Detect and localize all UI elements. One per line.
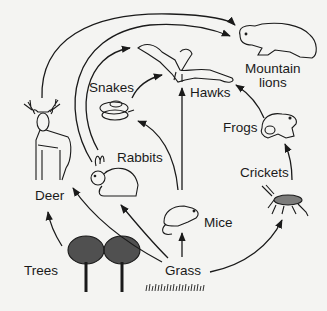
- hawk-illustration: [138, 45, 233, 83]
- label-mountain-lions-line2: lions: [245, 76, 301, 90]
- mouse-illustration: [163, 206, 198, 234]
- cricket-illustration: [262, 185, 308, 216]
- label-trees: Trees: [24, 264, 58, 278]
- label-mice: Mice: [204, 216, 233, 230]
- label-frogs: Frogs: [223, 121, 258, 135]
- trees-illustration: [68, 236, 140, 292]
- mountain-lion-illustration: [240, 23, 317, 58]
- label-rabbits: Rabbits: [117, 151, 163, 165]
- label-grass: Grass: [165, 264, 201, 278]
- arrow-rabbits-to-hawks: [86, 48, 130, 150]
- arrow-snakes-to-hawks: [132, 75, 162, 98]
- label-mountain-lions: Mountain lions: [245, 62, 301, 90]
- deer-illustration: [24, 99, 71, 180]
- label-deer: Deer: [35, 189, 64, 203]
- label-hawks: Hawks: [190, 86, 231, 100]
- grass-illustration: [146, 284, 204, 291]
- frog-illustration: [261, 114, 296, 138]
- label-snakes: Snakes: [89, 81, 134, 95]
- arrow-trees-to-deer: [48, 212, 62, 246]
- label-mountain-lions-line1: Mountain: [245, 62, 301, 76]
- arrows: [42, 14, 292, 272]
- snake-illustration: [100, 101, 134, 120]
- label-crickets: Crickets: [240, 166, 289, 180]
